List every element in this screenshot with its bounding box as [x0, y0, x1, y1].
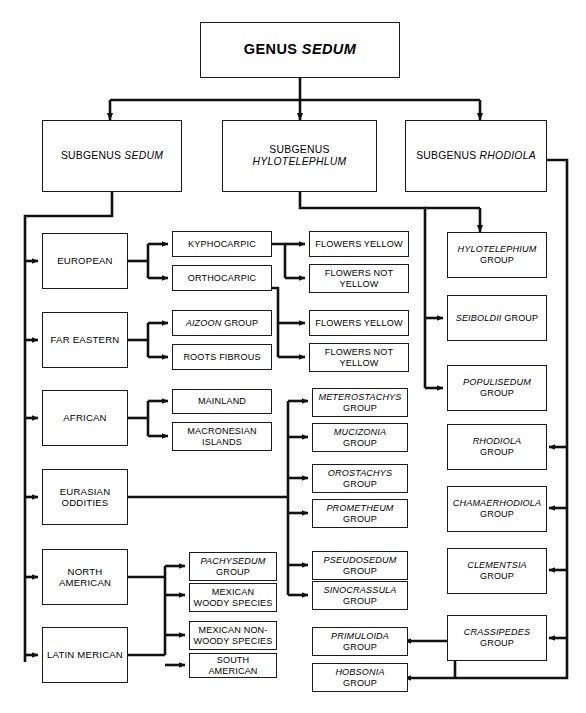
crassipedes-group-label: CRASSIPEDESGROUP — [461, 627, 533, 648]
subgenus-rhodiola-label: SUBGENUS RHODIOLA — [413, 150, 539, 162]
mainland-label: MAINLAND — [195, 396, 249, 407]
node-south-american[interactable]: SOUTH AMERICAN — [189, 653, 277, 678]
node-clementsia-group[interactable]: CLEMENTSIAGROUP — [447, 548, 547, 594]
node-meterostachys-group[interactable]: METEROSTACHYSGROUP — [312, 388, 408, 417]
orthocarpic-label: ORTHOCARPIC — [185, 273, 260, 284]
node-flowers-yellow-1[interactable]: FLOWERS YELLOW — [309, 231, 409, 257]
clementsia-group-label: CLEMENTSIAGROUP — [464, 560, 530, 581]
node-flowers-yellow-2[interactable]: FLOWERS YELLOW — [309, 310, 409, 336]
node-primuloida-group[interactable]: PRIMULOIDAGROUP — [312, 627, 408, 656]
north-american-label: NORTH AMERICAN — [43, 566, 127, 589]
seiboldii-group-label: SEIBOLDII GROUP — [453, 313, 542, 324]
mucizonia-group-label: MUCIZONIAGROUP — [331, 427, 389, 448]
node-crassipedes-group[interactable]: CRASSIPEDESGROUP — [447, 615, 547, 661]
node-kyphocarpic[interactable]: KYPHOCARPIC — [172, 231, 272, 257]
node-populisedum-group[interactable]: POPULISEDUMGROUP — [447, 365, 547, 411]
hobsonia-group-label: HOBSONIAGROUP — [332, 667, 387, 688]
node-far-eastern[interactable]: FAR EASTERN — [42, 312, 128, 368]
genus-sedum-label: GENUS SEDUM — [241, 41, 359, 58]
aizoon-group-label: AIZOON GROUP — [183, 318, 262, 329]
node-flowers-not-yellow-1[interactable]: FLOWERS NOT YELLOW — [309, 264, 409, 293]
node-orthocarpic[interactable]: ORTHOCARPIC — [172, 265, 272, 291]
primuloida-group-label: PRIMULOIDAGROUP — [328, 631, 392, 652]
node-roots-fibrous[interactable]: ROOTS FIBROUS — [172, 344, 272, 370]
roots-fibrous-label: ROOTS FIBROUS — [180, 352, 263, 363]
sinocrassula-group-label: SINOCRASSULAGROUP — [320, 585, 399, 606]
wire-orthocarpic-fork — [272, 288, 278, 357]
node-latin-merican[interactable]: LATIN MERICAN — [42, 627, 128, 683]
node-chamaerhodiola-group[interactable]: CHAMAERHODIOLAGROUP — [447, 486, 547, 532]
south-american-label: SOUTH AMERICAN — [190, 655, 276, 676]
far-eastern-label: FAR EASTERN — [48, 334, 123, 345]
subgenus-hylotelephum-label: SUBGENUSHYLOTELEPHLUM — [250, 144, 350, 169]
hylotelephium-group-label: HYLOTELEPHIUMGROUP — [455, 244, 540, 265]
node-african[interactable]: AFRICAN — [42, 390, 128, 446]
mexican-non-woody-species-label: MEXICAN NON-WOODY SPECIES — [190, 625, 276, 646]
subgenus-sedum-label: SUBGENUS SEDUM — [58, 150, 166, 162]
node-mainland[interactable]: MAINLAND — [172, 389, 272, 414]
pachysedum-group-label: PACHYSEDUMGROUP — [198, 556, 269, 577]
node-mexican-woody-species[interactable]: MEXICAN WOODY SPECIES — [189, 583, 277, 612]
macronesian-islands-label: MACRONESIAN ISLANDS — [173, 426, 271, 447]
flowers-not-yellow-1-label: FLOWERS NOT YELLOW — [310, 268, 408, 289]
prometheum-group-label: PROMETHEUMGROUP — [323, 503, 396, 524]
node-european[interactable]: EUROPEAN — [42, 233, 128, 289]
orostachys-group-label: OROSTACHYSGROUP — [325, 468, 396, 489]
node-orostachys-group[interactable]: OROSTACHYSGROUP — [312, 464, 408, 493]
node-rhodiola-group[interactable]: RHODIOLAGROUP — [447, 424, 547, 470]
flowers-yellow-2-label: FLOWERS YELLOW — [312, 318, 405, 329]
node-prometheum-group[interactable]: PROMETHEUMGROUP — [312, 499, 408, 528]
eurasian-oddities-label: EURASIAN ODDITIES — [43, 486, 127, 509]
node-mexican-non-woody-species[interactable]: MEXICAN NON-WOODY SPECIES — [189, 621, 277, 650]
node-subgenus-sedum[interactable]: SUBGENUS SEDUM — [42, 120, 182, 192]
chamaerhodiola-group-label: CHAMAERHODIOLAGROUP — [450, 498, 545, 519]
meterostachys-group-label: METEROSTACHYSGROUP — [315, 392, 404, 413]
node-north-american[interactable]: NORTH AMERICAN — [42, 549, 128, 605]
rhodiola-group-label: RHODIOLAGROUP — [470, 436, 525, 457]
mexican-woody-species-label: MEXICAN WOODY SPECIES — [190, 587, 276, 608]
flowers-yellow-1-label: FLOWERS YELLOW — [312, 239, 405, 250]
flowers-not-yellow-2-label: FLOWERS NOT YELLOW — [310, 347, 408, 368]
node-sinocrassula-group[interactable]: SINOCRASSULAGROUP — [312, 581, 408, 610]
african-label: AFRICAN — [60, 412, 110, 423]
european-label: EUROPEAN — [54, 255, 115, 266]
populisedum-group-label: POPULISEDUMGROUP — [460, 377, 534, 398]
kyphocarpic-label: KYPHOCARPIC — [185, 239, 259, 250]
node-subgenus-hylotelephum[interactable]: SUBGENUSHYLOTELEPHLUM — [222, 120, 377, 192]
pseudosedum-group-label: PSEUDOSEDUMGROUP — [321, 555, 400, 576]
node-aizoon-group[interactable]: AIZOON GROUP — [172, 310, 272, 336]
latin-merican-label: LATIN MERICAN — [44, 649, 126, 660]
node-subgenus-rhodiola[interactable]: SUBGENUS RHODIOLA — [405, 120, 547, 192]
node-flowers-not-yellow-2[interactable]: FLOWERS NOT YELLOW — [309, 343, 409, 372]
node-pseudosedum-group[interactable]: PSEUDOSEDUMGROUP — [312, 551, 408, 580]
sedum-classification-chart: GENUS SEDUM SUBGENUS SEDUM SUBGENUSHYLOT… — [0, 0, 586, 713]
node-mucizonia-group[interactable]: MUCIZONIAGROUP — [312, 423, 408, 452]
node-seiboldii-group[interactable]: SEIBOLDII GROUP — [447, 295, 547, 341]
node-hobsonia-group[interactable]: HOBSONIAGROUP — [312, 663, 408, 692]
node-genus-sedum[interactable]: GENUS SEDUM — [200, 22, 400, 78]
wire-kyphocarpic-fork — [272, 244, 285, 278]
node-pachysedum-group[interactable]: PACHYSEDUMGROUP — [189, 552, 277, 581]
node-macronesian-islands[interactable]: MACRONESIAN ISLANDS — [172, 422, 272, 451]
node-hylotelephium-group[interactable]: HYLOTELEPHIUMGROUP — [447, 232, 547, 278]
node-eurasian-oddities[interactable]: EURASIAN ODDITIES — [42, 469, 128, 525]
